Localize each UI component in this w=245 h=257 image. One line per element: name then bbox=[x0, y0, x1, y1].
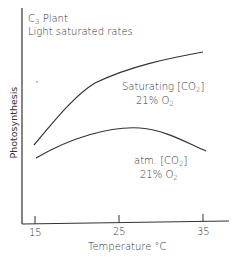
atm-annotation-line1: atm. [CO2] bbox=[134, 155, 187, 170]
x-tick-label-25: 25 bbox=[113, 226, 126, 237]
x-tick-label-15: 15 bbox=[29, 227, 42, 238]
atm-co2-curve bbox=[36, 128, 206, 158]
x-axis bbox=[22, 221, 229, 224]
y-axis-label: Photosynthesis bbox=[8, 89, 19, 159]
atm-annotation-line2: 21% O2 bbox=[140, 169, 178, 184]
chart-subtitle: Light saturated rates bbox=[28, 26, 133, 37]
x-tick-label-35: 35 bbox=[197, 226, 210, 237]
saturating-co2-curve bbox=[34, 52, 203, 145]
saturating-annotation-line1: Saturating [CO2] bbox=[122, 81, 204, 96]
x-axis-label: Temperature °C bbox=[88, 241, 167, 252]
saturating-annotation-line2: 21% O2 bbox=[136, 95, 174, 110]
chart-plot bbox=[0, 0, 245, 257]
stray-dot bbox=[36, 81, 37, 82]
